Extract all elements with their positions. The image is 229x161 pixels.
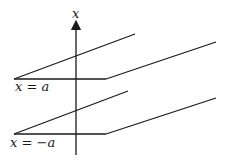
axis-label: x (72, 6, 80, 21)
plane-lower-label: x = −a (10, 135, 55, 150)
plane-lower (14, 91, 216, 134)
plane-upper-left-edge (14, 34, 135, 79)
plane-lower-left-edge (14, 91, 128, 134)
parallel-planes-diagram: x x = a x = −a (0, 0, 229, 161)
plane-upper-label: x = a (15, 79, 49, 94)
plane-lower-right-edge (106, 98, 216, 134)
plane-upper (14, 34, 216, 79)
plane-upper-right-edge (106, 42, 216, 79)
